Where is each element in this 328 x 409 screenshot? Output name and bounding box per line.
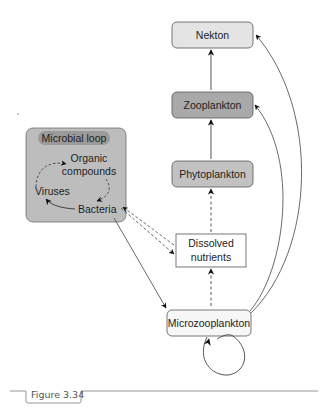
figure-caption: Figure 3.34 (31, 389, 84, 400)
organic-compounds-label-line1: Organic (71, 152, 108, 164)
node-zooplankton: Zooplankton (172, 92, 253, 118)
microbial-loop-title: Microbial loop (42, 132, 107, 144)
microbial-loop-panel: Microbial loop Organic compounds Viruses… (26, 128, 126, 222)
bacteria-to-nutrients-arrow (121, 208, 174, 254)
node-dissolved-nutrients: Dissolved nutrients (176, 234, 246, 267)
nekton-label: Nekton (196, 29, 229, 41)
dissolved-nutrients-label-line2: nutrients (191, 251, 231, 263)
microzooplankton-to-nekton-arrow (251, 35, 302, 313)
viruses-label: Viruses (35, 185, 70, 197)
node-nekton: Nekton (172, 22, 253, 48)
bacteria-to-microzooplankton-arrow (114, 218, 166, 308)
microzooplankton-label: Microzooplankton (168, 317, 250, 329)
dissolved-nutrients-label-line1: Dissolved (188, 237, 234, 249)
zooplankton-label: Zooplankton (184, 99, 242, 111)
microzooplankton-self-loop-arrow (203, 335, 244, 375)
phytoplankton-label: Phytoplankton (179, 168, 246, 180)
organic-compounds-label-line2: compounds (62, 165, 116, 177)
stray-dot (17, 113, 19, 115)
node-phytoplankton: Phytoplankton (172, 161, 253, 187)
node-microzooplankton: Microzooplankton (167, 310, 251, 336)
bacteria-label: Bacteria (78, 203, 117, 215)
figure-caption-bar: Figure 3.34 (10, 389, 318, 403)
microzooplankton-to-zooplankton-arrow (250, 105, 283, 311)
food-web-diagram: Microbial loop Organic compounds Viruses… (0, 0, 328, 409)
nutrients-to-bacteria-arrow (123, 207, 174, 245)
